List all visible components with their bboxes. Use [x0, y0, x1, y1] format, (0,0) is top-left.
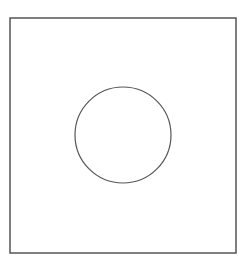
diagram-canvas	[0, 0, 248, 267]
background	[0, 0, 248, 267]
